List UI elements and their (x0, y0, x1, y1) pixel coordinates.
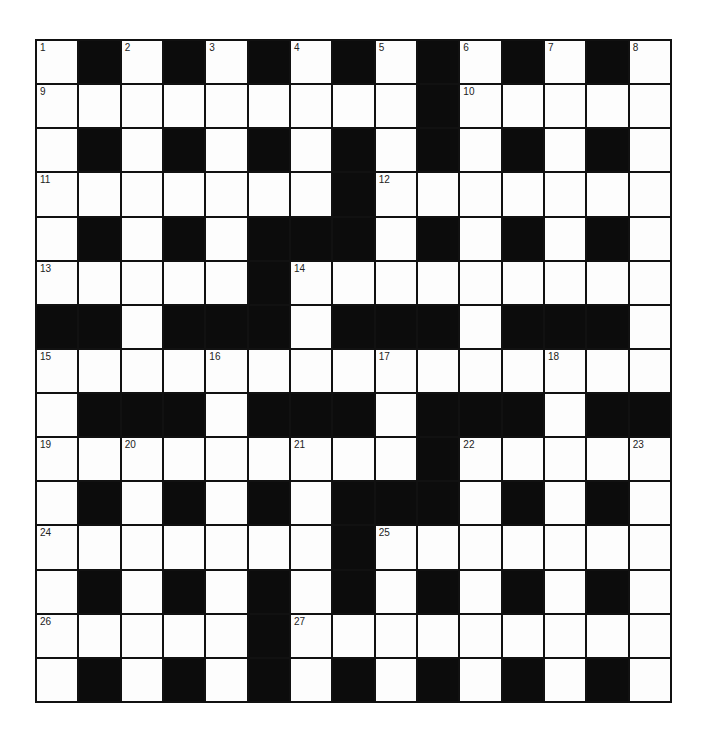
grid-cell[interactable]: 8 (630, 41, 670, 83)
grid-cell[interactable] (79, 526, 119, 568)
grid-cell[interactable]: 27 (291, 615, 331, 657)
grid-cell[interactable] (376, 262, 416, 304)
grid-cell[interactable] (206, 438, 246, 480)
grid-cell[interactable] (630, 306, 670, 348)
grid-cell[interactable] (460, 659, 500, 701)
grid-cell[interactable] (122, 615, 162, 657)
grid-cell[interactable] (376, 615, 416, 657)
grid-cell[interactable] (122, 218, 162, 260)
grid-cell[interactable] (249, 350, 289, 392)
grid-cell[interactable]: 20 (122, 438, 162, 480)
grid-cell[interactable] (630, 173, 670, 215)
grid-cell[interactable] (122, 482, 162, 524)
grid-cell[interactable] (122, 85, 162, 127)
grid-cell[interactable] (587, 438, 627, 480)
grid-cell[interactable] (545, 218, 585, 260)
grid-cell[interactable] (503, 350, 543, 392)
grid-cell[interactable] (460, 129, 500, 171)
grid-cell[interactable] (503, 526, 543, 568)
grid-cell[interactable]: 5 (376, 41, 416, 83)
grid-cell[interactable] (291, 129, 331, 171)
grid-cell[interactable] (545, 262, 585, 304)
grid-cell[interactable]: 3 (206, 41, 246, 83)
grid-cell[interactable] (206, 615, 246, 657)
grid-cell[interactable] (587, 173, 627, 215)
grid-cell[interactable] (122, 173, 162, 215)
grid-cell[interactable] (418, 262, 458, 304)
grid-cell[interactable] (376, 85, 416, 127)
grid-cell[interactable]: 15 (37, 350, 77, 392)
grid-cell[interactable] (460, 306, 500, 348)
grid-cell[interactable]: 2 (122, 41, 162, 83)
grid-cell[interactable] (164, 438, 204, 480)
grid-cell[interactable] (545, 659, 585, 701)
grid-cell[interactable]: 24 (37, 526, 77, 568)
grid-cell[interactable]: 6 (460, 41, 500, 83)
grid-cell[interactable] (249, 173, 289, 215)
grid-cell[interactable] (291, 482, 331, 524)
grid-cell[interactable] (122, 306, 162, 348)
grid-cell[interactable] (460, 526, 500, 568)
grid-cell[interactable] (460, 615, 500, 657)
grid-cell[interactable] (460, 262, 500, 304)
grid-cell[interactable] (630, 482, 670, 524)
grid-cell[interactable] (503, 615, 543, 657)
grid-cell[interactable] (376, 659, 416, 701)
grid-cell[interactable]: 9 (37, 85, 77, 127)
grid-cell[interactable] (503, 173, 543, 215)
grid-cell[interactable] (37, 394, 77, 436)
grid-cell[interactable] (630, 350, 670, 392)
grid-cell[interactable] (206, 173, 246, 215)
grid-cell[interactable]: 19 (37, 438, 77, 480)
grid-cell[interactable]: 23 (630, 438, 670, 480)
grid-cell[interactable] (630, 262, 670, 304)
grid-cell[interactable] (545, 482, 585, 524)
grid-cell[interactable] (376, 129, 416, 171)
grid-cell[interactable] (291, 526, 331, 568)
grid-cell[interactable] (418, 526, 458, 568)
grid-cell[interactable] (545, 129, 585, 171)
grid-cell[interactable] (37, 571, 77, 613)
grid-cell[interactable] (164, 85, 204, 127)
grid-cell[interactable] (376, 438, 416, 480)
grid-cell[interactable] (503, 438, 543, 480)
grid-cell[interactable] (291, 350, 331, 392)
grid-cell[interactable] (587, 85, 627, 127)
grid-cell[interactable] (418, 615, 458, 657)
grid-cell[interactable] (545, 85, 585, 127)
grid-cell[interactable] (333, 262, 373, 304)
grid-cell[interactable] (630, 218, 670, 260)
grid-cell[interactable] (122, 526, 162, 568)
grid-cell[interactable] (37, 218, 77, 260)
grid-cell[interactable] (249, 85, 289, 127)
grid-cell[interactable] (164, 262, 204, 304)
grid-cell[interactable] (291, 659, 331, 701)
grid-cell[interactable] (333, 438, 373, 480)
grid-cell[interactable] (587, 262, 627, 304)
grid-cell[interactable]: 18 (545, 350, 585, 392)
grid-cell[interactable] (122, 659, 162, 701)
grid-cell[interactable] (630, 659, 670, 701)
grid-cell[interactable] (291, 85, 331, 127)
grid-cell[interactable] (587, 350, 627, 392)
grid-cell[interactable] (206, 526, 246, 568)
grid-cell[interactable] (460, 173, 500, 215)
grid-cell[interactable] (122, 129, 162, 171)
grid-cell[interactable] (376, 218, 416, 260)
grid-cell[interactable] (630, 85, 670, 127)
grid-cell[interactable] (333, 350, 373, 392)
grid-cell[interactable]: 16 (206, 350, 246, 392)
grid-cell[interactable] (545, 571, 585, 613)
grid-cell[interactable] (206, 482, 246, 524)
grid-cell[interactable] (249, 526, 289, 568)
grid-cell[interactable]: 21 (291, 438, 331, 480)
grid-cell[interactable] (460, 482, 500, 524)
grid-cell[interactable] (122, 571, 162, 613)
grid-cell[interactable] (418, 173, 458, 215)
grid-cell[interactable]: 4 (291, 41, 331, 83)
grid-cell[interactable] (630, 571, 670, 613)
grid-cell[interactable] (37, 659, 77, 701)
grid-cell[interactable] (460, 218, 500, 260)
grid-cell[interactable] (587, 615, 627, 657)
grid-cell[interactable] (79, 262, 119, 304)
